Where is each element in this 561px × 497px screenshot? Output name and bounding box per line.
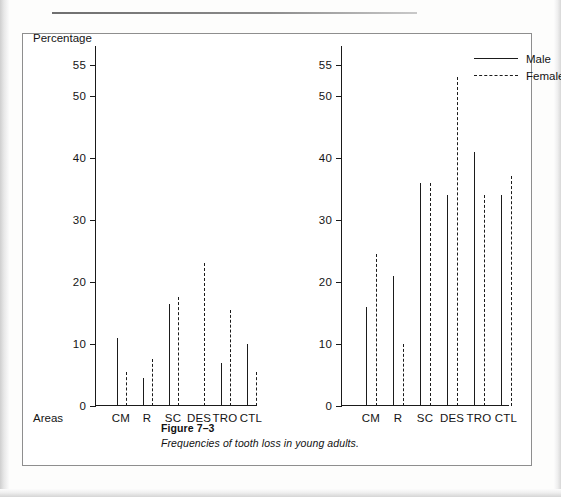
legend-label-female: Female: [526, 70, 561, 82]
chart-legend: Male Female: [474, 50, 561, 84]
bar-ctl-female: [256, 372, 257, 406]
y-axis-line-right: [341, 46, 342, 406]
y-axis-tick-label: 40: [319, 152, 332, 164]
bar-tro-female: [230, 310, 231, 406]
x-axis-category-label: TRO: [467, 412, 492, 424]
bar-cm-male: [117, 338, 118, 406]
bar-cm-female: [126, 372, 127, 406]
y-axis-tick: [336, 158, 342, 159]
bar-des-female: [204, 263, 205, 406]
bar-cm-female: [376, 254, 377, 406]
y-axis-tick-label: 30: [73, 214, 86, 226]
x-axis-category-label: SC: [417, 412, 433, 424]
bar-r-male: [393, 276, 394, 406]
legend-label-male: Male: [526, 53, 551, 65]
bar-ctl-female: [511, 176, 512, 406]
bar-tro-female: [484, 195, 485, 406]
x-axis-line-left: [95, 405, 257, 406]
y-axis-tick: [90, 65, 96, 66]
bar-tro-male: [221, 363, 222, 406]
x-axis-category-label: CTL: [495, 412, 517, 424]
legend-swatch-male-solid-line-icon: [474, 58, 518, 59]
y-axis-tick-label: 0: [79, 400, 86, 412]
y-axis-tick: [90, 344, 96, 345]
horizontal-rule: [52, 12, 417, 14]
bar-r-female: [152, 359, 153, 406]
y-axis-tick: [90, 96, 96, 97]
y-axis-tick: [336, 65, 342, 66]
bar-sc-male: [420, 183, 421, 406]
bar-ctl-male: [247, 344, 248, 406]
y-axis-tick: [336, 96, 342, 97]
y-axis-tick-label: 10: [73, 338, 86, 350]
y-axis-tick-label: 20: [73, 276, 86, 288]
legend-item-female: Female: [474, 67, 561, 84]
chart-panel-figure-7-4: Male Female 0102030405055CMRSCDESTROCTL …: [285, 34, 533, 467]
bar-r-male: [143, 378, 144, 406]
bar-ctl-male: [501, 195, 502, 406]
y-axis-tick: [90, 282, 96, 283]
bar-r-female: [403, 344, 404, 406]
y-axis-tick-label: 0: [325, 400, 332, 412]
y-axis-line-left: [95, 46, 96, 406]
y-axis-tick-label: 50: [73, 90, 86, 102]
scan-edge-bottom: [0, 489, 561, 497]
y-axis-tick: [90, 158, 96, 159]
y-axis-tick-label: 40: [73, 152, 86, 164]
x-axis-category-label: CM: [112, 412, 130, 424]
y-axis-tick: [336, 282, 342, 283]
figure-box: Percentage Areas 0102030405055CMRSCDESTR…: [22, 33, 532, 466]
y-axis-tick: [336, 220, 342, 221]
x-axis-category-label: R: [143, 412, 152, 424]
x-axis-category-label: CM: [362, 412, 380, 424]
y-axis-tick-label: 55: [319, 59, 332, 71]
bar-cm-male: [366, 307, 367, 406]
y-axis-tick-label: 55: [73, 59, 86, 71]
bar-tro-male: [474, 152, 475, 406]
x-axis-title-left: Areas: [33, 412, 63, 424]
y-axis-tick: [336, 344, 342, 345]
legend-swatch-female-dashed-line-icon: [474, 75, 518, 76]
x-axis-category-label: DES: [440, 412, 464, 424]
bar-des-female: [457, 77, 458, 406]
y-axis-tick-label: 50: [319, 90, 332, 102]
plot-area-figure-7-4: Male Female 0102030405055CMRSCDESTROCTL: [341, 46, 513, 406]
x-axis-category-label: R: [394, 412, 403, 424]
plot-area-figure-7-3: Percentage Areas 0102030405055CMRSCDESTR…: [95, 46, 257, 406]
y-axis-tick: [336, 406, 342, 407]
legend-item-male: Male: [474, 50, 561, 67]
y-axis-tick-label: 30: [319, 214, 332, 226]
scan-edge-left: [0, 0, 9, 497]
y-axis-tick-label: 10: [319, 338, 332, 350]
y-axis-tick-label: 20: [319, 276, 332, 288]
bar-sc-female: [178, 297, 179, 406]
y-axis-tick: [90, 220, 96, 221]
bar-des-male: [447, 195, 448, 406]
y-axis-title-left: Percentage: [33, 32, 92, 44]
bar-sc-female: [430, 183, 431, 406]
y-axis-tick: [90, 406, 96, 407]
bar-sc-male: [169, 304, 170, 406]
chart-panel-figure-7-3: Percentage Areas 0102030405055CMRSCDESTR…: [23, 34, 285, 467]
